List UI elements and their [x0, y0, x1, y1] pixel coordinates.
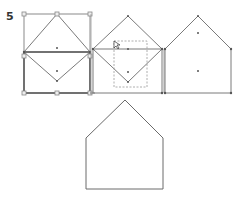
- panel-4: [86, 100, 163, 189]
- diagram-canvas: 5: [0, 0, 249, 202]
- arrow-cursor-icon: [114, 41, 120, 49]
- panel-1: [22, 12, 95, 95]
- final-house-shape[interactable]: [86, 100, 163, 189]
- square-shape[interactable]: [24, 52, 90, 93]
- square-shape-2[interactable]: [93, 49, 162, 93]
- merged-house-shape[interactable]: [165, 16, 231, 93]
- panel-2: [91, 14, 164, 95]
- panel-3: [164, 15, 232, 94]
- selection-handles[interactable]: [22, 12, 92, 95]
